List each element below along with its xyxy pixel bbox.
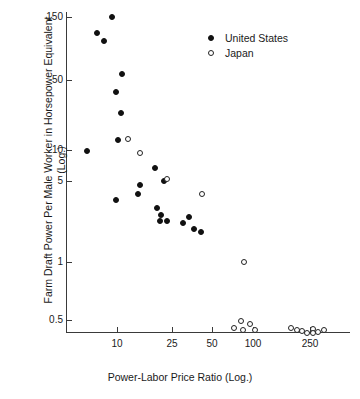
data-point-japan [164, 176, 170, 182]
data-point-japan [247, 321, 253, 327]
filled-circle-icon [208, 35, 214, 41]
data-point-united-states [113, 89, 119, 95]
data-point-japan [241, 259, 247, 265]
data-point-japan [321, 327, 327, 333]
data-point-united-states [157, 218, 163, 224]
data-point-united-states [118, 110, 124, 116]
y-tick-mark [67, 320, 72, 321]
data-point-united-states [119, 71, 125, 77]
data-point-united-states [94, 30, 100, 36]
x-tick-label: 50 [206, 339, 217, 349]
data-point-united-states [198, 229, 204, 235]
data-point-japan [199, 191, 205, 197]
data-point-united-states [113, 197, 119, 203]
x-tick-mark [117, 327, 118, 332]
open-circle-icon [208, 50, 214, 56]
data-point-united-states [115, 137, 121, 143]
data-point-united-states [164, 218, 170, 224]
data-point-united-states [135, 191, 141, 197]
data-point-united-states [180, 220, 186, 226]
data-point-japan [125, 136, 131, 142]
data-point-united-states [101, 38, 107, 44]
data-point-united-states [84, 148, 90, 154]
data-point-united-states [154, 205, 160, 211]
data-point-united-states [109, 14, 115, 20]
x-tick-label: 10 [111, 339, 122, 349]
x-tick-label: 100 [245, 339, 262, 349]
scatter-chart-figure: 1505010510.5 102550100250 United States … [0, 0, 360, 399]
legend-item-united-states: United States [208, 30, 288, 45]
chart-legend: United States Japan [208, 30, 288, 60]
data-point-japan [240, 327, 246, 333]
x-tick-mark [212, 327, 213, 332]
data-point-japan [252, 327, 258, 333]
data-point-japan [238, 318, 244, 324]
data-point-united-states [137, 182, 143, 188]
y-tick-label: 0.5 [49, 315, 63, 325]
data-point-united-states [152, 165, 158, 171]
legend-label-japan: Japan [225, 47, 254, 59]
legend-item-japan: Japan [208, 45, 288, 60]
legend-label-united-states: United States [225, 32, 288, 44]
data-point-united-states [186, 214, 192, 220]
data-point-japan [137, 150, 143, 156]
x-tick-label: 25 [166, 339, 177, 349]
x-axis-title: Power-Labor Price Ratio (Log.) [0, 371, 360, 383]
y-axis-title: Farm Draft Power Per Male Worker in Hors… [42, 10, 68, 310]
data-point-japan [231, 325, 237, 331]
x-tick-label: 250 [302, 339, 319, 349]
x-tick-mark [172, 327, 173, 332]
data-point-united-states [191, 226, 197, 232]
